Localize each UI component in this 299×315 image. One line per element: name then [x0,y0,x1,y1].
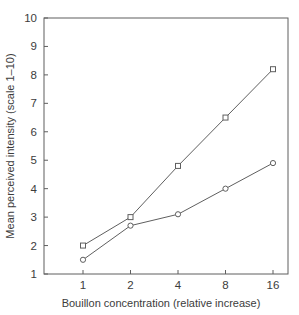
square-marker [271,67,276,72]
y-tick-label: 1 [31,268,37,280]
square-marker [176,163,181,168]
circle-marker [175,212,180,217]
x-tick-label: 16 [267,279,280,291]
square-series-line [83,69,273,245]
x-tick-label: 8 [222,279,228,291]
y-tick-label: 4 [31,183,38,195]
circle-marker [223,186,228,191]
x-tick-label: 4 [175,279,182,291]
circle-marker [80,257,85,262]
y-tick-label: 10 [24,12,37,24]
y-tick-label: 5 [31,154,37,166]
circle-marker [128,223,133,228]
x-tick-label: 1 [80,279,86,291]
circle-marker [270,160,275,165]
plot-area: 12345678910124816 [0,0,299,315]
y-tick-label: 3 [31,211,37,223]
square-marker [223,115,228,120]
x-tick-label: 2 [127,279,133,291]
y-tick-label: 9 [31,40,37,52]
x-axis-label: Bouillon concentration (relative increas… [34,297,288,309]
bouillon-intensity-chart: Mean perceived intensity (scale 1–10) 12… [0,0,299,315]
y-tick-label: 7 [31,97,37,109]
plot-frame [44,18,288,274]
y-tick-label: 6 [31,126,37,138]
square-marker [128,215,133,220]
square-marker [81,243,86,248]
y-tick-label: 8 [31,69,37,81]
y-tick-label: 2 [31,240,37,252]
